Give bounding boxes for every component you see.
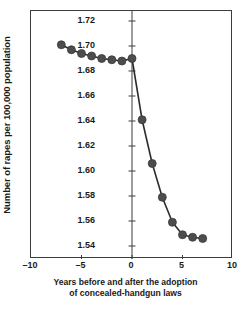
y-axis-tick-label: 1.62 bbox=[61, 141, 95, 150]
chart-figure: Number of rapes per 100,000 population 1… bbox=[0, 0, 251, 309]
y-axis-tick-label: 1.64 bbox=[61, 116, 95, 125]
y-axis-title: Number of rapes per 100,000 population bbox=[0, 0, 14, 250]
x-axis-tick-label: –5 bbox=[75, 261, 85, 270]
x-axis-title-line-1: Years before and after the adoption bbox=[8, 277, 243, 288]
y-axis-tick-label: 1.68 bbox=[61, 66, 95, 75]
x-axis-tick-marks bbox=[82, 255, 183, 259]
y-axis-tick-label: 1.72 bbox=[61, 16, 95, 25]
x-axis-title-line-2: of concealed-handgun laws bbox=[8, 288, 243, 299]
data-point-marker bbox=[128, 55, 136, 63]
x-axis-tick-label: 5 bbox=[179, 261, 184, 270]
y-axis-tick-label: 1.58 bbox=[61, 191, 95, 200]
y-axis-tick-label: 1.60 bbox=[61, 166, 95, 175]
data-point-marker bbox=[138, 116, 146, 124]
data-point-marker bbox=[179, 231, 187, 239]
data-point-marker bbox=[108, 56, 116, 64]
y-axis-tick-labels: 1.541.561.581.601.621.641.661.681.701.72 bbox=[61, 10, 95, 258]
data-point-marker bbox=[148, 160, 156, 168]
y-axis-tick-label: 1.70 bbox=[61, 41, 95, 50]
data-point-marker bbox=[199, 235, 207, 243]
data-point-marker bbox=[189, 233, 197, 241]
x-axis-tick-label: 10 bbox=[227, 261, 237, 270]
x-axis-tick-label: –10 bbox=[22, 261, 37, 270]
y-axis-tick-label: 1.56 bbox=[61, 216, 95, 225]
data-point-marker bbox=[118, 57, 126, 65]
x-axis-title: Years before and after the adoption of c… bbox=[8, 277, 243, 298]
data-point-marker bbox=[158, 193, 166, 201]
y-axis-tick-label: 1.66 bbox=[61, 91, 95, 100]
y-axis-tick-label: 1.54 bbox=[61, 241, 95, 250]
x-axis-tick-label: 0 bbox=[128, 261, 133, 270]
data-point-marker bbox=[98, 55, 106, 63]
data-point-marker bbox=[168, 218, 176, 226]
x-axis-tick-labels: –10–50510 bbox=[30, 261, 232, 275]
